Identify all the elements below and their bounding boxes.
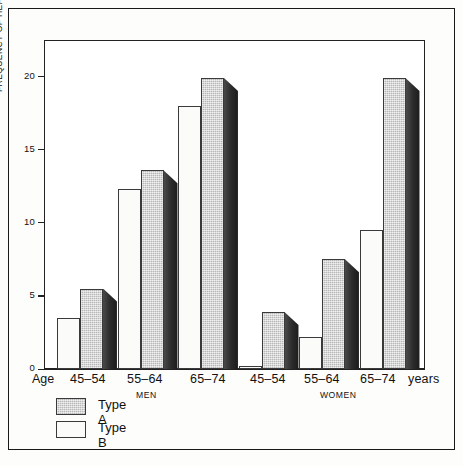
bar-type-b (239, 366, 262, 369)
bar-type-a-side-face (224, 78, 238, 369)
bar-type-b (57, 318, 80, 369)
x-axis-section-label-women: WOMEN (320, 390, 356, 400)
x-axis-label-4: 55–64 (304, 372, 340, 386)
x-axis-label-1: 55–64 (127, 372, 163, 386)
x-axis-section-label-men: MEN (136, 390, 157, 400)
bars-container (45, 40, 425, 369)
chart-screenshot: FREQUENCY OF HEART ATTACK (%) 05101520 A… (0, 0, 463, 466)
bar-type-a (80, 289, 103, 369)
legend-swatch-type-b-icon (56, 421, 86, 438)
bar-type-a-side-face (164, 170, 178, 369)
legend-swatch-type-a-icon (56, 398, 86, 415)
y-tick-label: 5 (30, 289, 35, 300)
y-axis-title: FREQUENCY OF HEART ATTACK (%) (0, 0, 4, 92)
x-axis-label-3: 45–54 (250, 372, 286, 386)
bar-group (299, 40, 358, 369)
bar-type-a (262, 312, 285, 369)
x-axis-label-5: 65–74 (360, 372, 396, 386)
x-axis-labels: Age45–5455–6465–7445–5455–6465–74yearsME… (0, 372, 463, 392)
y-tick-label: 20 (24, 70, 35, 81)
legend-label-type-b: Type B (98, 420, 126, 450)
x-axis-label-2: 65–74 (190, 372, 226, 386)
x-axis-baseline (44, 369, 425, 370)
bar-type-a (201, 78, 224, 369)
bar-type-b (118, 189, 141, 369)
bar-group (360, 40, 419, 369)
x-axis-label-0: 45–54 (70, 372, 106, 386)
bar-type-a (322, 259, 345, 369)
bar-type-a (141, 170, 164, 369)
bar-type-b (360, 230, 383, 369)
bar-type-a-side-face (345, 259, 359, 369)
x-axis-unit-suffix: years (408, 372, 440, 386)
x-axis-age-prefix: Age (32, 372, 54, 386)
bar-group (57, 40, 116, 369)
y-tick-label: 10 (24, 216, 35, 227)
bar-type-a-side-face (285, 312, 299, 369)
bar-type-a-side-face (103, 289, 117, 369)
bar-type-a (383, 78, 406, 369)
bar-group (178, 40, 237, 369)
bar-type-b (299, 337, 322, 369)
bar-type-b (178, 106, 201, 369)
bar-group (118, 40, 177, 369)
bar-group (239, 40, 298, 369)
bar-type-a-side-face (406, 78, 420, 369)
y-tick-label: 15 (24, 143, 35, 154)
